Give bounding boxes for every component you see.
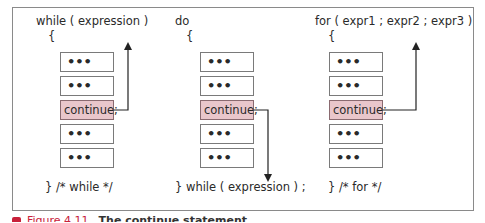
while-arrow-up-icon: [114, 46, 128, 110]
do-arrow-down-icon: [254, 110, 268, 178]
figure-marker-icon: [12, 217, 21, 223]
figure-title: The continue statement: [99, 214, 247, 222]
for-arrow-up-icon: [383, 46, 416, 110]
flow-arrows: [0, 0, 485, 222]
figure-caption: Figure 4.11The continue statement: [12, 214, 247, 222]
figure-number: Figure 4.11: [27, 214, 89, 222]
